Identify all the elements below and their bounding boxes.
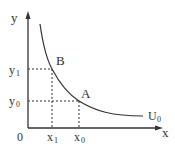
- y-axis-label: y: [11, 10, 18, 25]
- indifference-curve-diagram: y x 0 B A y 1 y 0 x 1 x 0 U 0: [0, 0, 175, 151]
- y0-label: y 0: [9, 94, 20, 109]
- svg-text:1: 1: [16, 69, 20, 78]
- svg-text:0: 0: [157, 115, 161, 124]
- svg-text:1: 1: [54, 136, 58, 145]
- point-b-label: B: [56, 53, 65, 68]
- y-axis-arrow-icon: [26, 11, 31, 19]
- svg-text:x: x: [74, 130, 80, 144]
- y1-label: y 1: [9, 63, 20, 78]
- svg-text:0: 0: [16, 100, 20, 109]
- svg-text:x: x: [47, 130, 53, 144]
- guide-lines: [28, 69, 79, 128]
- curve-label-u0: U 0: [148, 109, 161, 124]
- svg-text:0: 0: [81, 136, 85, 145]
- origin-label: 0: [17, 130, 23, 144]
- x-axis-label: x: [162, 125, 169, 140]
- point-a-label: A: [81, 86, 91, 101]
- x0-label: x 0: [74, 130, 85, 145]
- svg-text:y: y: [9, 63, 15, 77]
- svg-text:U: U: [148, 109, 157, 123]
- svg-text:y: y: [9, 94, 15, 108]
- indifference-curve: [40, 24, 143, 116]
- x1-label: x 1: [47, 130, 58, 145]
